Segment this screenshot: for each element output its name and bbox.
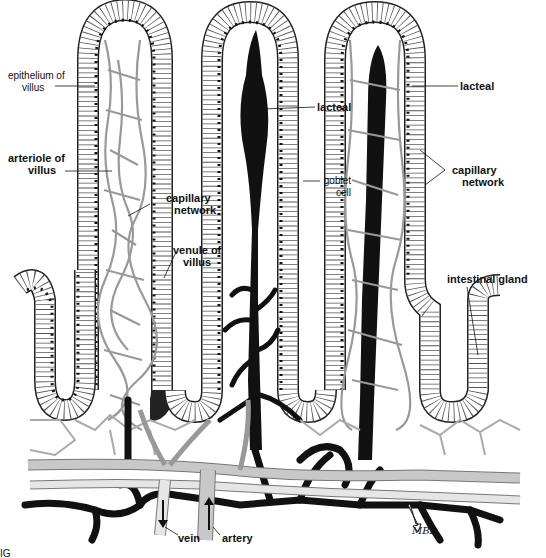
label-line-2: villus [8,82,65,94]
right-lacteal [358,45,386,460]
left-villus [88,10,162,430]
label-line-2: network [166,204,216,216]
label-intestinal-gland: intestinal gland [447,273,528,285]
partial-caption: IG [0,548,11,558]
label-capillary-network-right: capillary network [452,164,504,188]
label-line-1: capillary [166,192,216,204]
label-goblet-cell: goblet cell [322,175,351,199]
artist-signature: MBL [412,525,436,536]
label-epithelium-of-villus: epithelium of villus [8,70,65,94]
label-lacteal-right: lacteal [460,80,494,92]
label-line-1: venule of [173,244,221,256]
label-line-1: epithelium of [8,70,65,82]
label-line-1: goblet [322,175,351,187]
left-fold [20,270,85,410]
central-lacteal [240,30,268,450]
label-line-1: arteriole of [8,152,65,164]
label-line-1: capillary [452,164,504,176]
label-vein: vein [178,532,200,544]
label-line-2: cell [322,187,351,199]
label-lacteal-center: lacteal [317,101,351,113]
label-capillary-network-left: capillary network [166,192,216,216]
label-arteriole-of-villus: arteriole of villus [8,152,65,176]
center-villus [175,12,326,450]
label-line-2: villus [173,256,221,268]
label-artery: artery [222,532,253,544]
label-line-2: villus [8,164,65,176]
label-line-2: network [452,176,504,188]
label-venule-of-villus: venule of villus [173,244,221,268]
